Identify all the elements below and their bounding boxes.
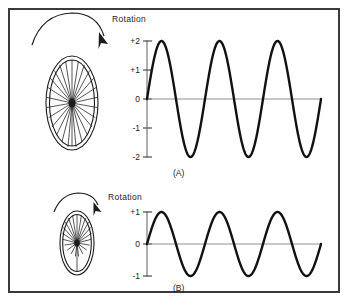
small-wheel-illustration: [60, 211, 94, 275]
figure-container: Rotation +2 +1 0 -1 -2 (A): [0, 0, 353, 305]
panel-b: Rotation +1 0 -1 (B): [54, 192, 321, 293]
rotation-arrow-a-icon: [32, 13, 108, 49]
axis-b-label-m1: -1: [132, 271, 140, 281]
caption-a: (A): [173, 168, 185, 178]
panel-a: Rotation +2 +1 0 -1 -2 (A): [32, 13, 321, 178]
axis-a-label-p2: +2: [130, 36, 140, 46]
axis-a-label-0: 0: [135, 94, 140, 104]
caption-b: (B): [173, 283, 185, 293]
axis-b-label-p1: +1: [130, 207, 140, 217]
rotation-arrow-b-icon: [54, 193, 102, 216]
rotation-label-b: Rotation: [108, 192, 142, 202]
wheel-hub-icon: [68, 98, 75, 107]
small-wheel-hub-icon: [74, 239, 80, 246]
axis-a-label-m2: -2: [132, 152, 140, 162]
axis-a-label-p1: +1: [130, 65, 140, 75]
figure-graphic: Rotation +2 +1 0 -1 -2 (A): [0, 0, 353, 305]
large-wheel-illustration: [46, 56, 98, 150]
axis-a-label-m1: -1: [132, 123, 140, 133]
axis-b-label-0: 0: [135, 239, 140, 249]
rotation-label-a: Rotation: [112, 14, 146, 24]
